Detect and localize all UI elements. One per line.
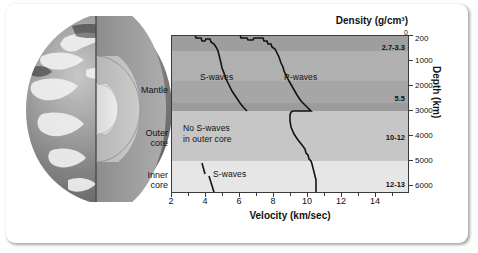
annotation-no-s-waves-line1: No S-waves — [183, 123, 230, 134]
density-axis-title: Density (g/cm³) — [336, 15, 408, 26]
velocity-axis-title: Velocity (km/sec) — [171, 210, 409, 221]
layer-label-inner-core-line1: Inner — [114, 170, 168, 180]
layer-label-inner-core-line2: core — [114, 180, 168, 190]
annotation-p-waves-mantle: P-waves — [284, 72, 317, 82]
layer-label-mantle: Mantle — [116, 85, 168, 95]
velocity-tick-mark — [188, 193, 189, 196]
velocity-label-2: 2 — [161, 196, 181, 206]
annotation-s-waves-mantle: S-waves — [200, 72, 233, 82]
velocity-tick-mark — [290, 193, 291, 196]
depth-label-6000: 6000 — [415, 181, 433, 190]
layer-label-outer-core-line1: Outer — [114, 128, 168, 138]
depth-label-1000: 1000 — [415, 56, 433, 65]
velocity-label-6: 6 — [229, 196, 249, 206]
density-value-inner-core: 12-13 — [319, 180, 405, 189]
depth-tick-mark — [409, 160, 413, 161]
velocity-tick-mark — [256, 193, 257, 196]
depth-tick-mark — [409, 185, 413, 186]
velocity-tick-mark — [358, 193, 359, 196]
layer-label-mantle-text: Mantle — [141, 85, 168, 95]
velocity-depth-plot: S-waves P-waves No S-waves in outer core… — [171, 35, 409, 192]
layer-label-inner-core: Inner core — [114, 170, 168, 190]
p-wave-curve — [240, 35, 316, 192]
depth-tick-mark — [409, 110, 413, 111]
depth-label-0: 0 — [404, 29, 408, 36]
velocity-label-8: 8 — [263, 196, 283, 206]
depth-tick-mark — [409, 135, 413, 136]
velocity-label-12: 12 — [331, 196, 351, 206]
s-wave-inner-core-upper — [202, 163, 205, 174]
velocity-tick-mark — [392, 193, 393, 196]
velocity-tick-mark — [222, 193, 223, 196]
depth-label-4000: 4000 — [415, 131, 433, 140]
density-value-mantle: 5.5 — [319, 94, 405, 103]
annotation-s-waves-inner-core: S-waves — [213, 169, 246, 179]
annotation-no-s-waves-line2: in outer core — [183, 134, 232, 145]
plot-top-axis — [171, 35, 409, 36]
seismic-wave-curves — [171, 35, 409, 192]
depth-axis-title: Depth (km) — [431, 66, 442, 118]
plot-right-axis — [408, 35, 409, 192]
depth-tick-mark — [409, 35, 413, 36]
figure-card: S-waves P-waves No S-waves in outer core… — [6, 4, 468, 243]
layer-label-outer-core-line2: core — [114, 138, 168, 148]
velocity-label-14: 14 — [365, 196, 385, 206]
velocity-label-4: 4 — [195, 196, 215, 206]
depth-label-200: 200 — [415, 34, 428, 43]
velocity-tick-mark — [324, 193, 325, 196]
density-value-crust: 2.7-3.3 — [319, 43, 405, 52]
velocity-label-10: 10 — [297, 196, 317, 206]
depth-tick-mark — [409, 85, 413, 86]
depth-tick-mark — [409, 60, 413, 61]
depth-label-5000: 5000 — [415, 156, 433, 165]
layer-label-outer-core: Outer core — [114, 128, 168, 148]
plot-left-axis — [171, 35, 172, 192]
density-value-outer-core: 10-12 — [319, 133, 405, 142]
